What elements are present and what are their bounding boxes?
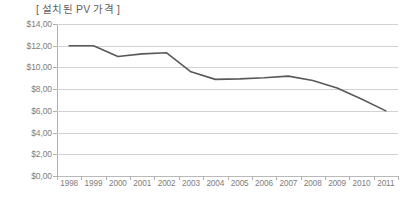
x-tick-label: 2005 [231,179,249,188]
series-line-chart [57,24,398,176]
y-tick-label: $0,00 [31,171,52,181]
x-tick-label: 2011 [377,179,394,188]
x-tick-label: 2002 [158,179,176,188]
y-tick-mark [53,89,57,90]
chart-figure: [ 설치된 PV 가격 ] $14,00$12,00$10,00$8,00$6,… [0,0,406,201]
x-tick-mark [349,176,350,180]
x-tick-mark [252,176,253,180]
x-tick-mark [81,176,82,180]
plot-area [57,24,398,176]
y-tick-label: $2,00 [31,149,52,159]
y-tick-label: $4,00 [31,128,52,138]
x-tick-label: 2007 [279,179,297,188]
y-tick-label: $10,00 [27,62,52,72]
x-tick-label: 2004 [206,179,224,188]
x-tick-mark [130,176,131,180]
x-tick-label: 2003 [182,179,200,188]
x-tick-mark [106,176,107,180]
x-tick-mark [301,176,302,180]
x-tick-label: 2006 [255,179,273,188]
x-tick-mark [325,176,326,180]
x-tick-mark [398,176,399,180]
x-tick-label: 1999 [85,179,103,188]
x-tick-mark [228,176,229,180]
chart-title: [ 설치된 PV 가격 ] [36,1,120,16]
y-tick-label: $12,00 [27,41,52,51]
y-tick-mark [53,46,57,47]
x-tick-mark [374,176,375,180]
x-tick-label: 2000 [109,179,127,188]
x-tick-label: 1998 [60,179,78,188]
x-tick-mark [154,176,155,180]
x-tick-label: 2010 [353,179,371,188]
x-tick-mark [57,176,58,180]
y-tick-mark [53,111,57,112]
y-tick-mark [53,24,57,25]
x-tick-label: 2001 [133,179,151,188]
x-tick-mark [276,176,277,180]
x-tick-mark [179,176,180,180]
x-axis-labels: 1998199920002001200220032004200520062007… [57,179,398,197]
x-tick-label: 2009 [328,179,346,188]
y-tick-mark [53,154,57,155]
y-tick-label: $14,00 [27,19,52,29]
y-tick-mark [53,133,57,134]
series-polyline [69,46,386,111]
y-tick-label: $8,00 [31,84,52,94]
x-tick-label: 2008 [304,179,322,188]
y-tick-label: $6,00 [31,106,52,116]
y-axis-labels: $14,00$12,00$10,00$8,00$6,00$4,00$2,00$0… [0,24,52,176]
x-tick-mark [203,176,204,180]
y-tick-mark [53,67,57,68]
